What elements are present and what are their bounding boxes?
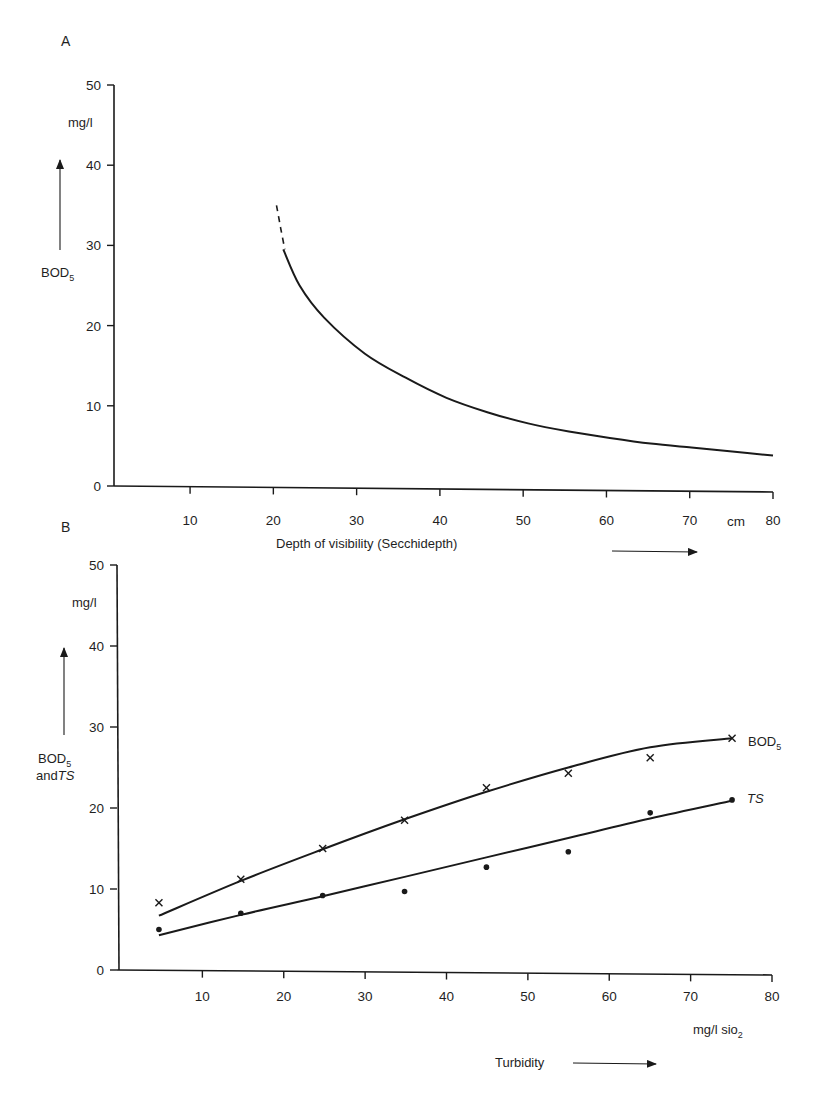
chart-b-x-axis: [117, 970, 772, 975]
chart-b-series-label-ts: TS: [747, 791, 764, 806]
chart-b-y-axis: [117, 565, 119, 970]
chart-a-y-tick-label: 0: [93, 479, 101, 494]
chart-a-x-ticks: 1020304050607080: [183, 487, 781, 528]
chart-b-y-tick-label: 10: [89, 882, 104, 897]
ts-dot-marker-icon: [238, 911, 244, 917]
ts-dot-marker-icon: [647, 810, 653, 816]
chart-a-y-unit: mg/l: [68, 115, 93, 130]
ts-dot-marker-icon: [484, 864, 490, 870]
chart-a-x-tick-label: 40: [432, 513, 447, 528]
chart-a-x-tick-label: 10: [183, 513, 198, 528]
chart-a-y-tick-label: 50: [86, 78, 101, 93]
chart-a-x-tick-label: 60: [599, 513, 614, 528]
panel-a-label: A: [61, 33, 71, 49]
chart-b-x-arrow-icon: [573, 1063, 656, 1064]
chart-b-y-ticks: 01020304050: [89, 558, 117, 978]
ts-dot-marker-icon: [156, 927, 162, 933]
chart-a-x-arrow-icon: [612, 551, 697, 552]
chart-b-x-tick-label: 30: [358, 989, 373, 1004]
chart-a-x-tick-label: 50: [516, 513, 531, 528]
chart-b-x-ticks: 1020304050607080: [195, 971, 780, 1004]
figure-canvas: A 01020304050 1020304050607080 mg/l BOD5…: [0, 0, 817, 1103]
chart-a-x-unit: cm: [727, 514, 745, 529]
chart-a-x-axis: [114, 486, 773, 492]
chart-a-x-tick-label: 70: [682, 513, 697, 528]
chart-b-y-unit: mg/l: [72, 595, 97, 610]
chart-a-y-ticks: 01020304050: [86, 78, 114, 494]
chart-b-y-title-line2: andTS: [36, 768, 75, 783]
chart-b: B 01020304050 1020304050607080 mg/l BOD5…: [36, 519, 781, 1070]
ts-dot-marker-icon: [566, 849, 572, 855]
chart-b-series-label-bod5: BOD5: [748, 734, 781, 752]
chart-b-y-tick-label: 50: [89, 558, 104, 573]
chart-b-x-tick-label: 80: [764, 989, 779, 1004]
ts-dot-marker-icon: [320, 893, 326, 899]
bod5-x-marker-icon: [647, 754, 654, 761]
panel-b-label: B: [61, 519, 70, 535]
chart-b-x-tick-label: 60: [602, 989, 617, 1004]
chart-b-y-title-line1: BOD5: [38, 751, 71, 769]
chart-a-y-tick-label: 30: [86, 238, 101, 253]
chart-a-y-tick-label: 20: [86, 319, 101, 334]
chart-a-x-title: Depth of visibility (Secchidepth): [276, 536, 457, 551]
chart-b-x-title: Turbidity: [495, 1055, 545, 1070]
bod5-x-marker-icon: [155, 899, 162, 906]
chart-a-x-tick-label: 20: [266, 513, 281, 528]
chart-b-x-tick-label: 20: [276, 989, 291, 1004]
chart-b-x-tick-label: 10: [195, 989, 210, 1004]
bod5-x-marker-icon: [483, 784, 490, 791]
chart-b-bod5-curve: [159, 738, 732, 915]
ts-dot-marker-icon: [729, 797, 735, 803]
chart-b-y-tick-label: 20: [89, 801, 104, 816]
chart-a: A 01020304050 1020304050607080 mg/l BOD5…: [41, 33, 781, 552]
chart-a-x-tick-label: 30: [349, 513, 364, 528]
chart-a-y-title: BOD5: [41, 265, 74, 283]
chart-b-y-tick-label: 30: [89, 720, 104, 735]
chart-b-ts-markers: [156, 797, 735, 932]
chart-b-x-tick-label: 50: [520, 989, 535, 1004]
chart-a-x-tick-label: 80: [765, 513, 780, 528]
ts-dot-marker-icon: [402, 889, 408, 895]
bod5-x-marker-icon: [565, 770, 572, 777]
chart-a-y-tick-label: 10: [86, 399, 101, 414]
chart-b-ts-curve: [159, 801, 732, 936]
chart-a-y-tick-label: 40: [86, 158, 101, 173]
chart-b-y-tick-label: 40: [89, 639, 104, 654]
chart-b-x-tick-label: 40: [439, 989, 454, 1004]
chart-b-x-unit: mg/l sio2: [693, 1022, 743, 1040]
chart-b-x-tick-label: 70: [683, 989, 698, 1004]
chart-b-bod5-markers: [155, 735, 735, 906]
chart-a-curve-solid: [283, 249, 773, 455]
chart-a-curve-dashed: [277, 205, 285, 249]
chart-b-y-tick-label: 0: [96, 963, 104, 978]
